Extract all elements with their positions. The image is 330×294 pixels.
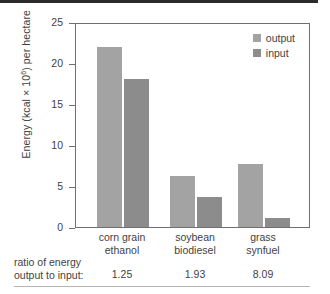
bar-output-soybean-biodiesel: [170, 176, 195, 227]
y-axis-title: Energy (kcal × 106) per hectare: [20, 0, 33, 184]
plot-area: output input: [75, 23, 310, 228]
bottom-divider-rule: [14, 286, 310, 287]
legend-label-output: output: [266, 32, 295, 44]
legend-item-input: input: [253, 47, 295, 59]
bar-output-corn-grain-ethanol: [97, 47, 122, 227]
y-tick-label: 15: [51, 98, 63, 110]
bar-output-grass-synfuel: [238, 164, 263, 227]
y-tick-label: 5: [57, 180, 63, 192]
y-tick-15: 15: [0, 105, 75, 106]
legend-label-input: input: [266, 47, 289, 59]
ratio-value-1: 1.25: [87, 268, 157, 280]
y-tick-20: 20: [0, 64, 75, 65]
category-label-line1: grass: [250, 231, 276, 243]
bar-input-corn-grain-ethanol: [124, 79, 149, 227]
top-divider-rule: [0, 0, 318, 3]
y-tick-5: 5: [0, 187, 75, 188]
legend-swatch-output: [253, 34, 261, 42]
figure-container: Energy (kcal × 106) per hectare 05101520…: [0, 0, 330, 294]
bar-input-soybean-biodiesel: [197, 197, 222, 227]
ratio-caption: ratio of energy output to input:: [14, 256, 83, 281]
ratio-value-3: 8.09: [228, 268, 298, 280]
ratio-caption-line2: output to input:: [14, 269, 83, 281]
y-tick-10: 10: [0, 146, 75, 147]
y-tick-label: 0: [57, 221, 63, 233]
y-tick-25: 25: [0, 23, 75, 24]
legend-swatch-input: [253, 49, 261, 57]
y-tick-label: 20: [51, 57, 63, 69]
ratio-value-2: 1.93: [160, 268, 230, 280]
legend-item-output: output: [253, 32, 295, 44]
category-label-line2: synfuel: [218, 244, 308, 257]
bar-input-grass-synfuel: [265, 218, 290, 227]
y-tick-0: 0: [0, 228, 75, 229]
ratio-caption-line1: ratio of energy: [14, 256, 81, 268]
category-label-3: grasssynfuel: [218, 231, 308, 256]
category-label-line1: corn grain: [99, 231, 146, 243]
y-axis-title-exponent: 6: [20, 71, 27, 75]
chart-legend: output input: [253, 32, 295, 62]
y-tick-label: 25: [51, 16, 63, 28]
category-label-line1: soybean: [175, 231, 215, 243]
y-axis-title-tail: ) per hectare: [20, 10, 32, 71]
y-tick-label: 10: [51, 139, 63, 151]
y-tick-mark: [69, 228, 75, 229]
